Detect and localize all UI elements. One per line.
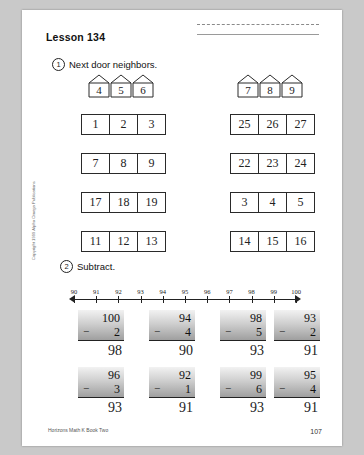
house: 5 bbox=[110, 74, 132, 98]
minuend: 95 bbox=[304, 368, 316, 383]
number-line-label: 92 bbox=[115, 288, 122, 295]
answer[interactable]: 93 bbox=[220, 343, 266, 359]
house-digit: 7 bbox=[237, 83, 259, 98]
answer-row[interactable]: 17 18 19 bbox=[81, 192, 166, 213]
subtrahend: 5 bbox=[256, 325, 262, 340]
house: 4 bbox=[88, 74, 110, 98]
house-digit: 8 bbox=[259, 83, 281, 98]
minus-icon: − bbox=[83, 382, 89, 394]
number-line-label: 96 bbox=[204, 288, 211, 295]
answer-cell[interactable]: 16 bbox=[287, 232, 314, 251]
answer-cell[interactable]: 18 bbox=[110, 193, 138, 212]
subtraction-problem[interactable]: 99 − 6 93 bbox=[220, 367, 266, 416]
subtrahend: 4 bbox=[310, 382, 316, 397]
answer-cell[interactable]: 23 bbox=[259, 154, 287, 173]
number-line-tick bbox=[185, 296, 186, 303]
houses-group-left: 4 5 6 bbox=[88, 74, 154, 98]
answer-cell[interactable]: 2 bbox=[110, 115, 138, 134]
answer-cell[interactable]: 26 bbox=[259, 115, 287, 134]
subtraction-problem[interactable]: 92 − 1 91 bbox=[149, 367, 195, 416]
answer-cell[interactable]: 3 bbox=[231, 193, 259, 212]
answer-row[interactable]: 22 23 24 bbox=[230, 153, 315, 174]
problem-box: 92 − 1 bbox=[149, 367, 195, 398]
minus-icon: − bbox=[279, 325, 285, 337]
answer[interactable]: 91 bbox=[149, 400, 195, 416]
answer-cell[interactable]: 7 bbox=[82, 154, 110, 173]
answer[interactable]: 90 bbox=[149, 343, 195, 359]
subtraction-problem[interactable]: 100 − 2 98 bbox=[78, 310, 124, 359]
answer-cell[interactable]: 11 bbox=[82, 232, 110, 251]
problem-box: 95 − 4 bbox=[274, 367, 320, 398]
number-line-tick bbox=[252, 296, 253, 303]
number-line-tick bbox=[163, 296, 164, 303]
number-line-label: 91 bbox=[93, 288, 100, 295]
number-line-tick bbox=[74, 296, 75, 303]
house: 8 bbox=[259, 74, 281, 98]
answer-cell[interactable]: 14 bbox=[231, 232, 259, 251]
minuend: 99 bbox=[250, 368, 262, 383]
minuend: 96 bbox=[108, 368, 120, 383]
name-solid-line bbox=[197, 34, 319, 35]
subtrahend: 2 bbox=[114, 325, 120, 340]
answer-cell[interactable]: 25 bbox=[231, 115, 259, 134]
instruction-2: 2Subtract. bbox=[60, 260, 115, 273]
number-line-label: 97 bbox=[226, 288, 233, 295]
problem-box: 94 − 4 bbox=[149, 310, 195, 341]
answer-cell[interactable]: 24 bbox=[287, 154, 314, 173]
answer-cell[interactable]: 4 bbox=[259, 193, 287, 212]
house-digit: 6 bbox=[132, 83, 154, 98]
answer-cell[interactable]: 5 bbox=[287, 193, 314, 212]
minus-icon: − bbox=[225, 382, 231, 394]
answer-cell[interactable]: 3 bbox=[138, 115, 165, 134]
house: 6 bbox=[132, 74, 154, 98]
subtraction-problem[interactable]: 95 − 4 91 bbox=[274, 367, 320, 416]
minus-icon: − bbox=[83, 325, 89, 337]
subtrahend: 3 bbox=[114, 382, 120, 397]
instruction-1-text: Next door neighbors. bbox=[69, 59, 157, 70]
answer[interactable]: 93 bbox=[220, 400, 266, 416]
answer-cell[interactable]: 9 bbox=[138, 154, 165, 173]
answer[interactable]: 91 bbox=[274, 343, 320, 359]
copyright-sidebar: Copyright 1999 Alpha Omega Publications bbox=[31, 181, 36, 260]
subtraction-problem[interactable]: 94 − 4 90 bbox=[149, 310, 195, 359]
answer-row[interactable]: 3 4 5 bbox=[230, 192, 315, 213]
number-line-tick bbox=[207, 296, 208, 303]
subtraction-problem[interactable]: 96 − 3 93 bbox=[78, 367, 124, 416]
answer-cell[interactable]: 27 bbox=[287, 115, 314, 134]
answer-cell[interactable]: 15 bbox=[259, 232, 287, 251]
number-line-label: 94 bbox=[160, 288, 167, 295]
answer-cell[interactable]: 12 bbox=[110, 232, 138, 251]
answer[interactable]: 93 bbox=[78, 400, 124, 416]
answer-row[interactable]: 1 2 3 bbox=[81, 114, 166, 135]
number-line-tick bbox=[141, 296, 142, 303]
answer[interactable]: 98 bbox=[78, 343, 124, 359]
answer-row[interactable]: 7 8 9 bbox=[81, 153, 166, 174]
answer-cell[interactable]: 13 bbox=[138, 232, 165, 251]
number-line-label: 90 bbox=[71, 288, 78, 295]
name-dashed-line bbox=[197, 24, 319, 25]
instruction-2-text: Subtract. bbox=[77, 261, 115, 272]
answer-cell[interactable]: 22 bbox=[231, 154, 259, 173]
houses-group-right: 7 8 9 bbox=[237, 74, 303, 98]
answer[interactable]: 91 bbox=[274, 400, 320, 416]
answer-cell[interactable]: 1 bbox=[82, 115, 110, 134]
answer-row[interactable]: 11 12 13 bbox=[81, 231, 166, 252]
minus-icon: − bbox=[154, 382, 160, 394]
answer-cell[interactable]: 8 bbox=[110, 154, 138, 173]
answer-row[interactable]: 25 26 27 bbox=[230, 114, 315, 135]
minus-icon: − bbox=[225, 325, 231, 337]
problem-box: 99 − 6 bbox=[220, 367, 266, 398]
worksheet-page: Lesson 134 1Next door neighbors. 4 5 6 7… bbox=[22, 10, 342, 446]
answer-row[interactable]: 14 15 16 bbox=[230, 231, 315, 252]
instruction-1: 1Next door neighbors. bbox=[52, 58, 157, 71]
answer-cell[interactable]: 19 bbox=[138, 193, 165, 212]
subtraction-problem[interactable]: 98 − 5 93 bbox=[220, 310, 266, 359]
number-line-label: 93 bbox=[137, 288, 144, 295]
problem-box: 98 − 5 bbox=[220, 310, 266, 341]
subtraction-problem[interactable]: 93 − 2 91 bbox=[274, 310, 320, 359]
problem-box: 100 − 2 bbox=[78, 310, 124, 341]
minuend: 92 bbox=[179, 368, 191, 383]
problem-box: 96 − 3 bbox=[78, 367, 124, 398]
answer-cell[interactable]: 17 bbox=[82, 193, 110, 212]
problem-number-1: 1 bbox=[52, 58, 65, 71]
